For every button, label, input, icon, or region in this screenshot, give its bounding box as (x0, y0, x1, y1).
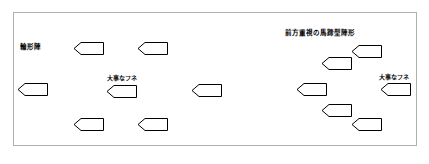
right-formation-label: 前方重視の馬蹄型陣形 (285, 30, 355, 37)
ship-right-horseshoe-3 (297, 83, 327, 96)
ship-left-ring-bottom-2 (138, 118, 168, 131)
left-important-ship-label: 大事なフネ (107, 75, 137, 81)
ship-right-horseshoe-5 (352, 118, 382, 131)
ship-left-ring-top-2 (138, 42, 168, 55)
ship-right-horseshoe-center-important (381, 83, 411, 96)
ship-right-horseshoe-2 (322, 57, 352, 70)
ship-left-ring-top-1 (74, 42, 104, 55)
ship-right-horseshoe-4 (322, 104, 352, 117)
ship-center (192, 84, 222, 97)
left-formation-label: 輪形陣 (20, 44, 41, 51)
formation-diagram: 輪形陣 大事なフネ 前方重視の馬蹄型陣形 (0, 0, 429, 164)
ship-left-ring-west (18, 83, 48, 96)
ship-left-ring-bottom-1 (74, 118, 104, 131)
ship-right-horseshoe-1 (352, 45, 382, 58)
ship-left-ring-center-important (107, 85, 137, 98)
right-important-ship-label: 大事なフネ (379, 74, 409, 80)
